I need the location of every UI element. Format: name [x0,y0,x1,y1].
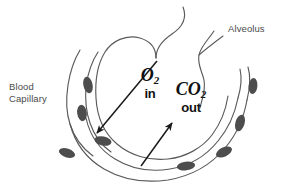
oxygen-formula-text: O [141,65,154,85]
carbon-dioxide-formula: CO2 [164,80,218,101]
capillary-inner-wall-right [238,69,241,98]
alveolus-leader-line [199,36,223,55]
blood-cell [214,144,233,160]
diagram-canvas: Blood Capillary Alveolus O2 in CO2 out [0,0,292,195]
carbon-dioxide-formula-text: CO [176,79,201,99]
blood-cell [233,113,247,132]
label-blood-capillary: Blood Capillary [9,81,47,104]
blood-cell [82,76,94,94]
blood-cell [58,146,77,160]
carbon-dioxide-label-group: CO2 out [164,80,218,115]
carbon-dioxide-subscript: 2 [201,88,207,100]
label-alveolus: Alveolus [228,23,265,35]
alveolus-inner-wall [156,7,185,58]
capillary-outer-wall-left [67,50,93,156]
carbon-dioxide-direction: out [164,101,218,115]
oxygen-subscript: 2 [154,74,160,86]
